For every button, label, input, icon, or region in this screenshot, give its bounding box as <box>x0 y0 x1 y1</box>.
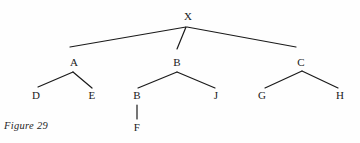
figure-container: XABCDEBJGHF Figure 29 <box>0 0 360 143</box>
tree-edge-b-j <box>177 72 215 88</box>
tree-node-g: G <box>252 90 272 101</box>
tree-node-b2: B <box>127 90 147 101</box>
tree-edge-x-c <box>187 27 296 47</box>
tree-edge-a-d <box>38 72 73 87</box>
tree-node-b: B <box>167 57 187 68</box>
tree-node-e: E <box>82 90 102 101</box>
tree-node-j: J <box>206 90 226 101</box>
tree-node-x: X <box>178 11 198 22</box>
tree-node-f: F <box>127 122 147 133</box>
tree-edge-c-h <box>302 71 338 88</box>
tree-edge-group <box>38 27 338 119</box>
tree-edge-x-b <box>177 27 186 49</box>
tree-node-h: H <box>330 90 350 101</box>
tree-edge-a-e <box>73 72 92 88</box>
tree-edge-b-b2 <box>138 72 177 88</box>
tree-node-d: D <box>26 90 46 101</box>
figure-caption: Figure 29 <box>4 120 48 131</box>
tree-edge-x-a <box>70 27 186 47</box>
tree-edge-c-g <box>265 71 302 88</box>
tree-node-c: C <box>291 57 311 68</box>
tree-node-a: A <box>64 57 84 68</box>
